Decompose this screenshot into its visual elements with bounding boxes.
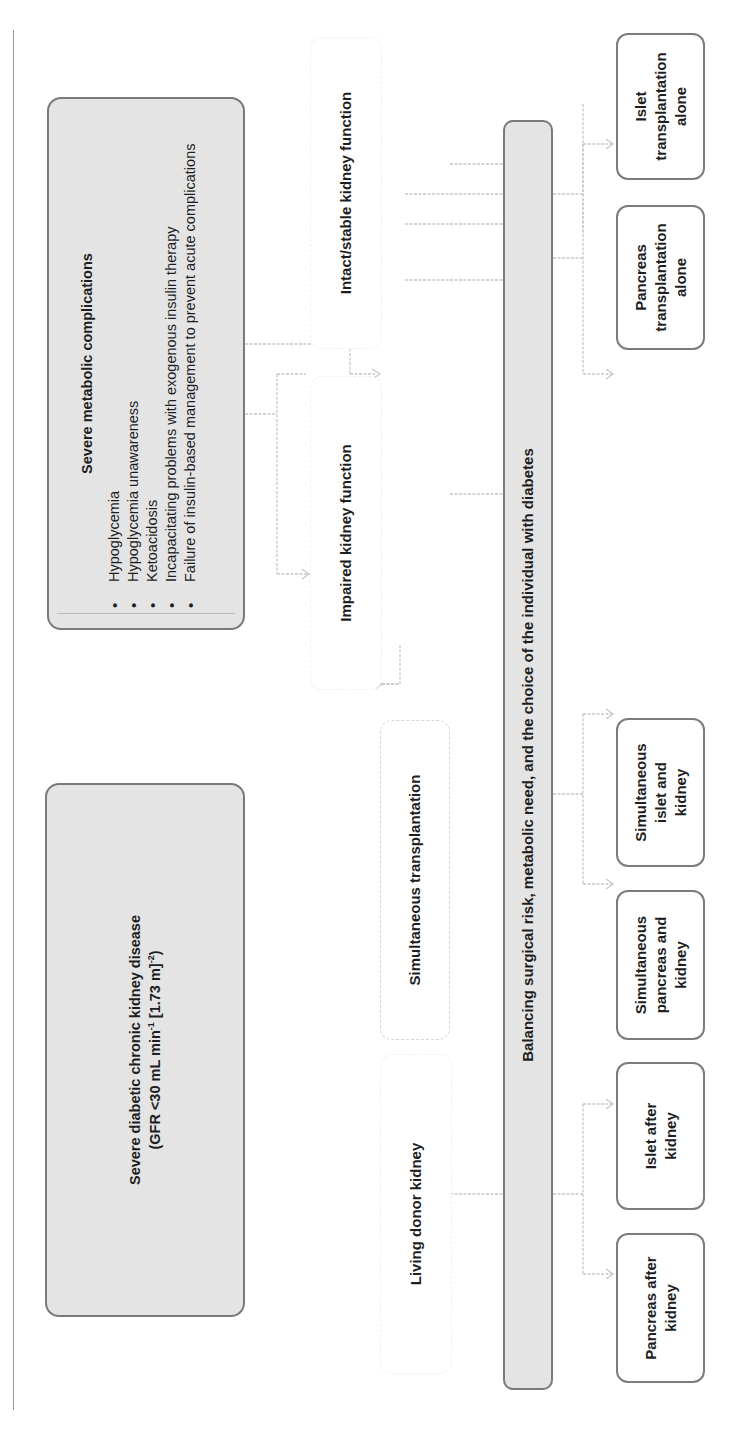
intact-kidney-function-node: Intact/stable kidney function — [310, 37, 382, 349]
outcome-simultaneous-pancreas-kidney: Simultaneous pancreas and kidney — [616, 890, 705, 1040]
simultaneous-transplantation-node: Simultaneous transplantation — [380, 720, 450, 1040]
list-item: Ketoacidosis — [143, 119, 162, 594]
simultaneous-transplantation-label: Simultaneous transplantation — [405, 775, 425, 986]
metabolic-title: Severe metabolic complications — [77, 119, 97, 608]
outcome-pancreas-transplantation-alone: Pancreas transplantation alone — [616, 205, 705, 350]
diagram-canvas: Severe diabetic chronic kidney disease (… — [0, 0, 740, 1434]
outcome-simultaneous-islet-kidney: Simultaneous islet and kidney — [616, 718, 705, 867]
impaired-kidney-function-label: Impaired kidney function — [336, 444, 356, 622]
outcome-pancreas-after-kidney: Pancreas after kidney — [616, 1233, 705, 1383]
ckd-title: Severe diabetic chronic kidney disease — [125, 915, 145, 1185]
outcome-islet-transplantation-alone: Islet transplantation alone — [616, 33, 705, 180]
ckd-root-box: Severe diabetic chronic kidney disease (… — [45, 783, 245, 1317]
bullet-margin-divider — [57, 613, 235, 614]
intact-kidney-function-label: Intact/stable kidney function — [336, 92, 356, 295]
list-item: Incapacitating problems with exogenous i… — [162, 119, 181, 594]
living-donor-kidney-node: Living donor kidney — [380, 1054, 452, 1374]
balancing-decision-bar: Balancing surgical risk, metabolic need,… — [503, 120, 553, 1390]
balancing-decision-label: Balancing surgical risk, metabolic need,… — [518, 448, 538, 1061]
metabolic-complications-box: Severe metabolic complications Hypoglyce… — [47, 97, 245, 630]
ckd-gfr-criteria: (GFR <30 mL min-1 [1.73 m]-2) — [145, 950, 165, 1149]
list-item: Failure of insulin-based management to p… — [181, 119, 200, 594]
metabolic-complications-list: Hypoglycemia Hypoglycemia unawareness Ke… — [105, 119, 200, 608]
list-item: Hypoglycemia unawareness — [124, 119, 143, 594]
impaired-kidney-function-node: Impaired kidney function — [310, 376, 382, 690]
outcome-islet-after-kidney: Islet after kidney — [616, 1062, 705, 1210]
living-donor-kidney-label: Living donor kidney — [406, 1143, 426, 1286]
list-item: Hypoglycemia — [105, 119, 124, 594]
